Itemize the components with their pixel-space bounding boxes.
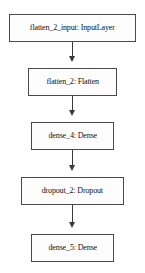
edge-flatten_2-to-dense_4 [72, 96, 73, 116]
edge-line [72, 150, 73, 166]
arrowhead-icon [69, 110, 75, 116]
edge-line [72, 42, 73, 57]
arrowhead-icon [69, 222, 75, 228]
node-label: dense_5: Dense [48, 244, 97, 252]
edge-line [72, 205, 73, 223]
graph-node-dense_4[interactable]: dense_4: Dense [31, 122, 114, 150]
node-label: flatten_2_input: InputLayer [30, 24, 115, 32]
node-label: flatten_2: Flatten [46, 78, 98, 86]
edge-flatten_2_input-to-flatten_2 [72, 42, 73, 62]
graph-node-dropout_2[interactable]: dropout_2: Dropout [21, 177, 124, 205]
arrowhead-icon [69, 165, 75, 171]
node-label: dense_4: Dense [48, 132, 97, 140]
graph-node-dense_5[interactable]: dense_5: Dense [31, 234, 114, 262]
edge-line [72, 96, 73, 111]
edge-dropout_2-to-dense_5 [72, 205, 73, 228]
edge-dense_4-to-dropout_2 [72, 150, 73, 171]
graph-node-flatten_2_input[interactable]: flatten_2_input: InputLayer [9, 14, 136, 42]
model-graph-canvas: flatten_2_input: InputLayer flatten_2: F… [0, 0, 145, 273]
arrowhead-icon [69, 56, 75, 62]
graph-node-flatten_2[interactable]: flatten_2: Flatten [28, 68, 117, 96]
node-label: dropout_2: Dropout [42, 187, 103, 195]
